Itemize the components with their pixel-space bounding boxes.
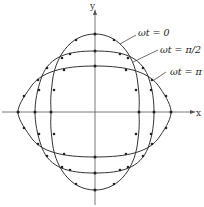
x-axis-label: x: [196, 108, 201, 118]
leader-wtpi2: [133, 50, 158, 62]
wave-shape-diagram: x y ωt = 0 ωt = π/2 ωt = π: [0, 0, 204, 207]
axes: [2, 12, 193, 205]
leader-wt0: [120, 35, 136, 44]
leader-wtpi: [154, 72, 166, 80]
label-wt0: ωt = 0: [138, 27, 170, 38]
label-wtpi: ωt = π: [170, 66, 203, 77]
y-axis-label: y: [89, 1, 96, 11]
label-wtpi2: ωt = π/2: [160, 44, 201, 55]
